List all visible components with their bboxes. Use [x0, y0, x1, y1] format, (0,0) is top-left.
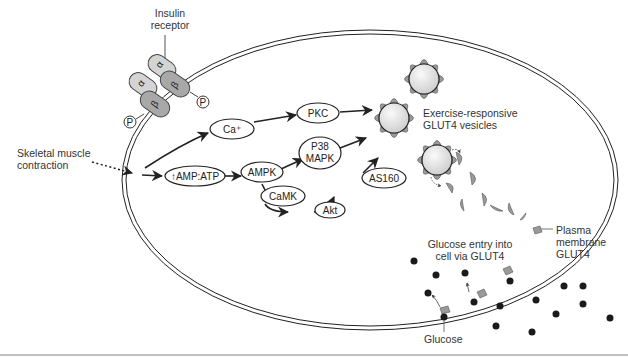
node-ca: Ca⁺ — [210, 119, 254, 139]
released-glut4 — [446, 152, 526, 220]
glucose-entry-label: Glucose entry into cell via GLUT4 — [425, 238, 515, 262]
insulin-receptor-label: Insulin receptor — [150, 7, 190, 31]
svg-text:P: P — [127, 117, 134, 128]
svg-text:MAPK: MAPK — [306, 153, 335, 164]
insulin-receptor: α β α β P P — [124, 35, 209, 128]
svg-text:AMPK: AMPK — [248, 167, 277, 178]
glucose-entry-arrows — [432, 283, 469, 307]
svg-text:↑AMP:ATP: ↑AMP:ATP — [171, 171, 219, 182]
node-ampk: AMPK — [241, 162, 283, 182]
node-akt: Akt — [315, 202, 345, 218]
svg-text:P38: P38 — [311, 141, 329, 152]
glucose-label: Glucose — [424, 333, 463, 345]
vesicles-label: Exercise-responsive GLUT4 vesicles — [423, 107, 518, 131]
node-amp-atp: ↑AMP:ATP — [165, 166, 225, 186]
signal-arrows — [142, 110, 378, 212]
node-as160: AS160 — [362, 168, 406, 188]
svg-text:CaMK: CaMK — [269, 191, 297, 202]
svg-text:AS160: AS160 — [369, 173, 399, 184]
stimulus-label: Skeletal muscle contraction — [17, 147, 91, 171]
svg-text:Akt: Akt — [323, 205, 338, 216]
svg-text:P: P — [200, 97, 207, 108]
node-camk: CaMK — [261, 186, 305, 206]
node-p38-mapk: P38 MAPK — [299, 137, 341, 169]
svg-text:Ca⁺: Ca⁺ — [223, 124, 241, 135]
diagram-canvas: α β α β P P Ca⁺ PKC — [0, 0, 628, 358]
plasma-glut4-label: Plasma membrane GLUT4 — [556, 224, 606, 260]
svg-text:PKC: PKC — [308, 108, 329, 119]
node-pkc: PKC — [297, 103, 339, 123]
